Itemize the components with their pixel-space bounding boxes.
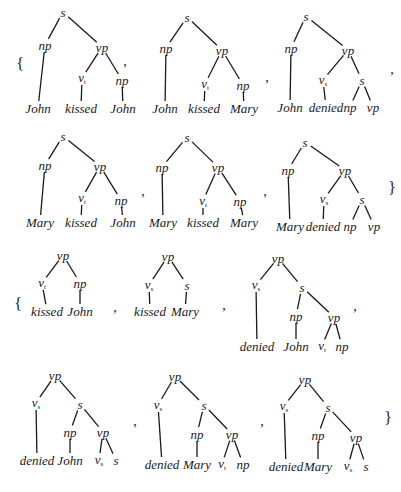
- tree-node-Mary: Mary: [276, 220, 304, 233]
- node-subscript: s: [101, 460, 104, 468]
- tree-edge: [307, 292, 329, 312]
- tree-edge: [40, 381, 51, 397]
- node-subscript: s: [38, 403, 41, 411]
- tree-edge: [206, 173, 215, 194]
- node-label: s: [363, 459, 368, 474]
- tree-node-John: John: [25, 102, 50, 115]
- node-label: Mary: [149, 215, 177, 230]
- tree-node-John: John: [110, 216, 135, 229]
- node-label: kissed: [188, 101, 220, 116]
- node-label: vp: [342, 43, 354, 58]
- tree-edge: [81, 85, 82, 101]
- tree-node-s: s: [201, 399, 206, 412]
- node-label: John: [110, 215, 135, 230]
- tree-node-vp: vp: [96, 41, 108, 54]
- tree-edge: [43, 290, 46, 304]
- node-label: John: [110, 101, 135, 116]
- tree-edge: [192, 142, 213, 162]
- tree-node-np: np: [237, 458, 250, 471]
- tree-t11-edges: [158, 381, 240, 457]
- tree-edge: [256, 292, 257, 339]
- tree-node-v: vt: [38, 276, 46, 291]
- tree-edge: [122, 87, 123, 101]
- node-label: s: [184, 10, 189, 25]
- tree-node-Mary: Mary: [230, 102, 258, 115]
- node-subscript: t: [84, 198, 86, 206]
- tree-edge: [158, 412, 161, 457]
- node-subscript: s: [160, 405, 163, 413]
- node-label: John: [67, 304, 92, 319]
- tree-edge: [365, 86, 371, 100]
- node-label: s: [184, 278, 189, 293]
- tree-node-vp: vp: [339, 164, 351, 177]
- node-label: Mary: [183, 457, 211, 472]
- tree-edge: [260, 263, 273, 279]
- tree-edge: [309, 384, 323, 401]
- tree-node-John: John: [152, 102, 177, 115]
- tree-edge: [350, 444, 354, 460]
- node-label: vp: [216, 43, 228, 58]
- tree-node-kissed: kissed: [187, 216, 219, 229]
- tree-node-Mary: Mary: [183, 458, 211, 471]
- node-label: Mary: [276, 219, 304, 234]
- tree-node-v: vs: [145, 278, 154, 293]
- node-label: John: [57, 453, 82, 468]
- comma-separator: ,: [141, 185, 145, 199]
- tree-node-vp: vp: [169, 370, 181, 383]
- node-subscript: t: [324, 346, 326, 354]
- tree-node-kissed: kissed: [65, 216, 97, 229]
- tree-edge: [208, 56, 219, 77]
- node-subscript: s: [325, 80, 328, 88]
- tree-edge: [166, 142, 182, 161]
- tree-node-Mary: Mary: [26, 216, 54, 229]
- tree-node-v: vs: [95, 453, 104, 468]
- tree-edge: [297, 294, 300, 309]
- tree-node-denied: denied: [20, 454, 55, 467]
- node-label: s: [201, 398, 206, 413]
- tree-edge: [36, 410, 37, 453]
- node-label: vp: [328, 310, 340, 325]
- tree-node-s: s: [359, 74, 364, 87]
- node-label: vp: [57, 248, 69, 263]
- tree-edge: [172, 262, 183, 279]
- node-label: kissed: [134, 304, 166, 319]
- parse-tree-figure: snpvpvtnpJohnkissedJohnsnpvpvtnpJohnkiss…: [0, 0, 401, 492]
- tree-node-np: np: [312, 429, 325, 442]
- node-label: np: [156, 160, 169, 175]
- tree-node-np: np: [116, 74, 129, 87]
- tree-node-vp: vp: [216, 44, 228, 57]
- tree-t6-edges: [288, 146, 371, 220]
- tree-edge: [86, 53, 98, 72]
- tree-edge: [288, 177, 290, 219]
- tree-node-vp: vp: [299, 373, 311, 386]
- node-label: s: [60, 129, 65, 144]
- node-label: denied: [306, 219, 341, 234]
- tree-node-v: vt: [78, 71, 86, 86]
- tree-edge: [199, 412, 203, 427]
- node-label: vp: [367, 100, 379, 115]
- tree-node-v: vt: [218, 457, 226, 472]
- tree-edge: [170, 23, 183, 42]
- node-label: Mary: [230, 215, 258, 230]
- tree-t12-edges: [284, 384, 363, 459]
- tree-node-denied: denied: [309, 101, 344, 114]
- tree-edge: [49, 142, 60, 159]
- comma-separator: ,: [263, 185, 267, 199]
- tree-edge: [106, 438, 113, 453]
- close-brace: }: [384, 410, 392, 426]
- node-label: John: [277, 100, 302, 115]
- tree-node-s: s: [299, 281, 304, 294]
- node-label: John: [152, 101, 177, 116]
- node-label: Mary: [304, 459, 332, 474]
- tree-edge: [192, 22, 217, 45]
- tree-node-v: vt: [78, 191, 86, 206]
- node-label: vp: [350, 430, 362, 445]
- tree-edges: [0, 0, 401, 492]
- tree-edge: [353, 86, 359, 100]
- tree-node-John: John: [67, 305, 92, 318]
- node-label: vp: [272, 251, 284, 266]
- comma-separator: ,: [222, 299, 226, 313]
- tree-edge: [162, 174, 163, 215]
- node-label: s: [184, 130, 189, 145]
- comma-separator: ,: [260, 415, 264, 429]
